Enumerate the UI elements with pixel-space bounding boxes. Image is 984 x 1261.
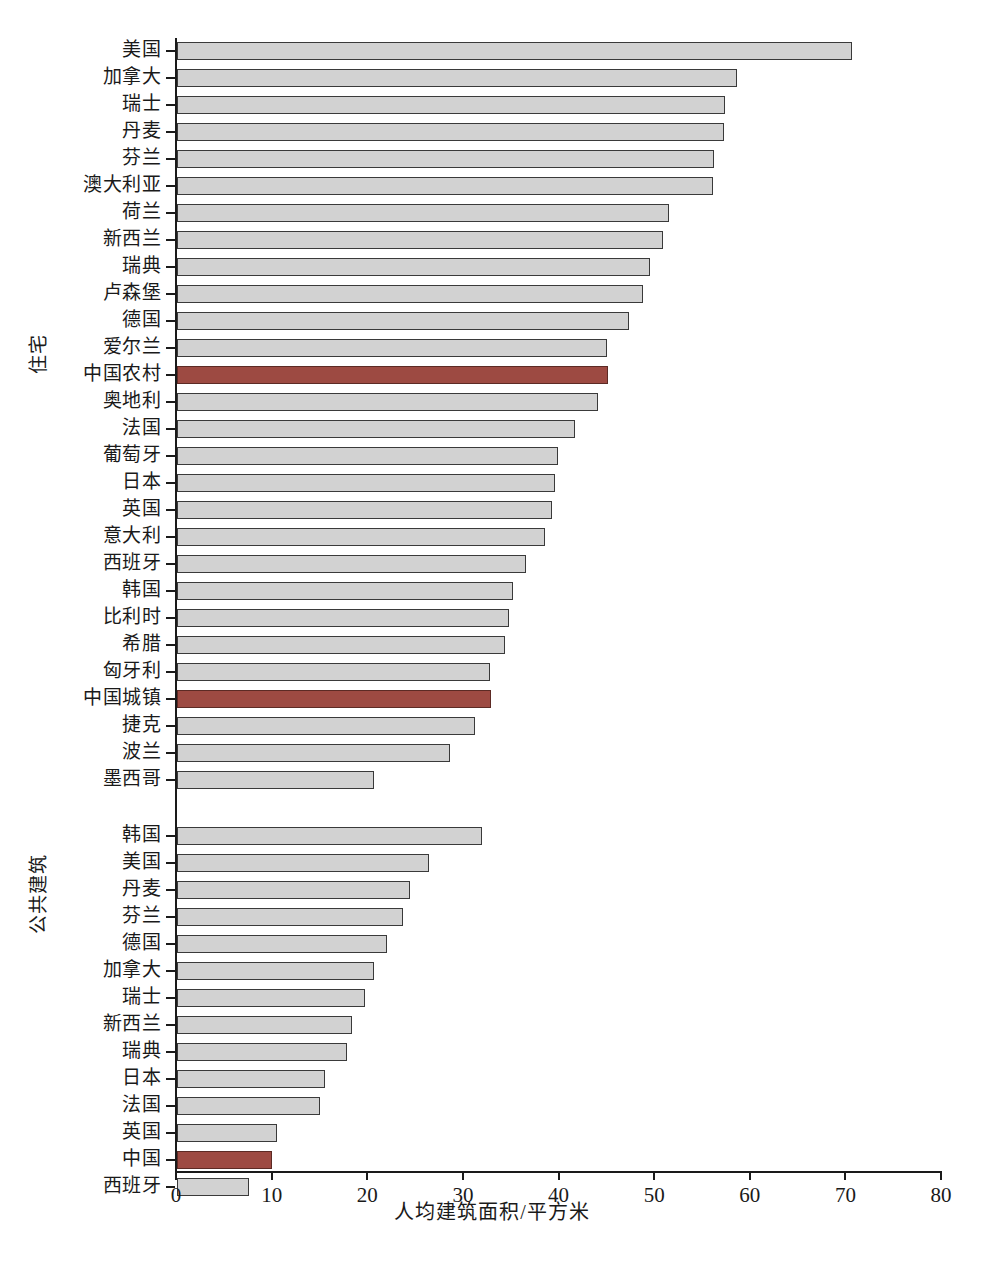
- bar-row: 韩国: [175, 827, 940, 845]
- bar: [177, 285, 643, 303]
- bar-row: 卢森堡: [175, 285, 940, 303]
- y-axis-tick: [166, 644, 175, 646]
- bar-row: 韩国: [175, 582, 940, 600]
- bar-row: 芬兰: [175, 908, 940, 926]
- bar-row: 意大利: [175, 528, 940, 546]
- bar: [177, 908, 403, 926]
- bar-row: 荷兰: [175, 204, 940, 222]
- bar-row: 波兰: [175, 744, 940, 762]
- category-label: 奥地利: [103, 390, 162, 412]
- y-axis-tick: [166, 374, 175, 376]
- y-axis-tick: [166, 104, 175, 106]
- bar: [177, 935, 387, 953]
- chart-figure: 住宅 公共建筑 美国加拿大瑞士丹麦芬兰澳大利亚荷兰新西兰瑞典卢森堡德国爱尔兰中国…: [0, 0, 984, 1261]
- category-label: 英国: [122, 1121, 161, 1143]
- y-axis-tick: [166, 185, 175, 187]
- bar-row: 匈牙利: [175, 663, 940, 681]
- category-label: 中国农村: [83, 363, 161, 385]
- bar: [177, 827, 482, 845]
- y-axis-tick: [166, 401, 175, 403]
- x-axis-tick: [940, 1171, 942, 1180]
- bar-row: 丹麦: [175, 123, 940, 141]
- bar: [177, 312, 629, 330]
- category-label: 中国城镇: [83, 687, 161, 709]
- y-axis-tick: [166, 563, 175, 565]
- y-axis-tick: [166, 482, 175, 484]
- y-axis-tick: [166, 1024, 175, 1026]
- figure-caption: [0, 1238, 984, 1261]
- bar: [177, 1124, 277, 1142]
- bar: [177, 231, 663, 249]
- category-label: 英国: [122, 498, 161, 520]
- bar-row: 德国: [175, 935, 940, 953]
- bar-row: 日本: [175, 1070, 940, 1088]
- x-axis-tick: [558, 1171, 560, 1180]
- y-axis-tick: [166, 1105, 175, 1107]
- y-axis-tick: [166, 455, 175, 457]
- y-axis-tick: [166, 158, 175, 160]
- category-label: 意大利: [103, 525, 162, 547]
- category-label: 德国: [122, 932, 161, 954]
- bar: [177, 42, 852, 60]
- y-axis-tick: [166, 347, 175, 349]
- category-label: 法国: [122, 1094, 161, 1116]
- y-axis-tick: [166, 835, 175, 837]
- group-axis-label-public: 公共建筑: [16, 900, 56, 1010]
- bar-row: 法国: [175, 1097, 940, 1115]
- category-label: 西班牙: [103, 552, 162, 574]
- category-label: 芬兰: [122, 905, 161, 927]
- bar: [177, 636, 505, 654]
- category-label: 新西兰: [103, 1013, 162, 1035]
- bar: [177, 177, 713, 195]
- bar-row: 英国: [175, 1124, 940, 1142]
- plot-area: 美国加拿大瑞士丹麦芬兰澳大利亚荷兰新西兰瑞典卢森堡德国爱尔兰中国农村奥地利法国葡…: [175, 38, 940, 1171]
- y-axis-tick: [166, 590, 175, 592]
- x-axis-tick: [653, 1171, 655, 1180]
- category-label: 美国: [122, 39, 161, 61]
- category-label: 瑞典: [122, 255, 161, 277]
- category-label: 澳大利亚: [83, 174, 161, 196]
- category-label: 墨西哥: [103, 768, 162, 790]
- bar: [177, 962, 374, 980]
- category-label: 葡萄牙: [103, 444, 162, 466]
- category-label: 加拿大: [103, 959, 162, 981]
- bar-row: 奥地利: [175, 393, 940, 411]
- bar-row: 法国: [175, 420, 940, 438]
- bar-row: 加拿大: [175, 962, 940, 980]
- bar: [177, 258, 650, 276]
- y-axis-tick: [166, 779, 175, 781]
- x-axis-tick: [175, 1171, 177, 1180]
- bar-row: 中国城镇: [175, 690, 940, 708]
- y-axis-tick: [166, 77, 175, 79]
- x-axis-title: 人均建筑面积/平方米: [0, 1196, 984, 1225]
- bar: [177, 474, 555, 492]
- y-axis-tick: [166, 1078, 175, 1080]
- bar: [177, 123, 724, 141]
- bar: [177, 555, 526, 573]
- y-axis-tick: [166, 509, 175, 511]
- y-axis-tick: [166, 239, 175, 241]
- x-axis-tick: [749, 1171, 751, 1180]
- category-label: 日本: [122, 1067, 161, 1089]
- y-axis-tick: [166, 1051, 175, 1053]
- bar-row: 瑞士: [175, 96, 940, 114]
- category-label: 新西兰: [103, 228, 162, 250]
- x-axis-tick: [844, 1171, 846, 1180]
- category-label: 加拿大: [103, 66, 162, 88]
- bar-row: 瑞典: [175, 258, 940, 276]
- group-axis-label-residential: 住宅: [16, 340, 56, 400]
- bar: [177, 447, 558, 465]
- bar: [177, 150, 714, 168]
- category-label: 法国: [122, 417, 161, 439]
- bar-row: 加拿大: [175, 69, 940, 87]
- bar-highlighted: [177, 366, 608, 384]
- bar-row: 墨西哥: [175, 771, 940, 789]
- category-label: 波兰: [122, 741, 161, 763]
- bar-highlighted: [177, 1151, 272, 1169]
- bar-row: 比利时: [175, 609, 940, 627]
- bar-row: 瑞典: [175, 1043, 940, 1061]
- y-axis-tick: [166, 997, 175, 999]
- y-axis-tick: [166, 50, 175, 52]
- bar: [177, 854, 429, 872]
- bar: [177, 881, 410, 899]
